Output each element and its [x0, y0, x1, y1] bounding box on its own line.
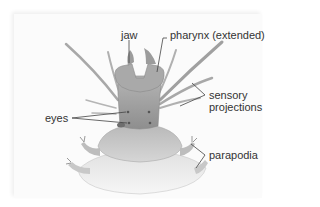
parapodium-right-mid — [180, 142, 195, 156]
parapodium-left-mid — [81, 142, 100, 156]
label-parapodia: parapodia — [209, 149, 258, 161]
jaw-right — [144, 48, 156, 64]
label-pharynx: pharynx (extended) — [170, 29, 265, 41]
body-segment-middle — [98, 124, 182, 162]
label-jaw: jaw — [121, 29, 138, 41]
jaw-left — [127, 50, 134, 66]
label-sensory-line2: projections — [209, 101, 262, 113]
label-eyes: eyes — [45, 112, 68, 124]
label-sensory-line1: sensory — [209, 89, 248, 101]
